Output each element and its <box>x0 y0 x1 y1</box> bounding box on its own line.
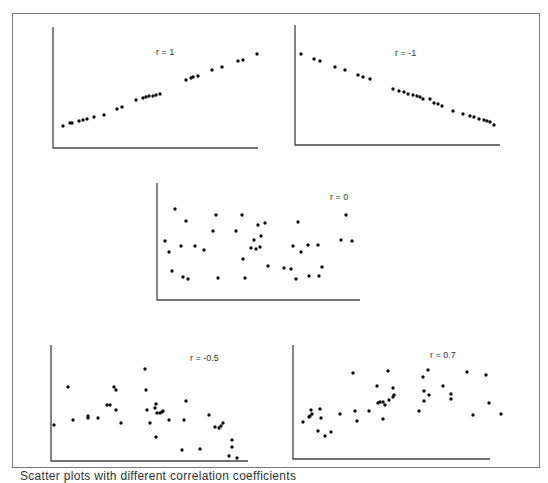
data-point <box>193 244 196 247</box>
data-point <box>86 414 89 417</box>
data-point <box>391 87 394 90</box>
data-point <box>213 425 216 428</box>
data-point <box>472 115 475 118</box>
data-point <box>391 386 394 389</box>
data-point <box>96 416 99 419</box>
data-point <box>318 59 321 62</box>
data-point <box>214 213 217 216</box>
data-point <box>230 438 233 441</box>
data-point <box>259 234 262 237</box>
data-point <box>484 373 487 376</box>
data-point <box>154 435 157 438</box>
data-point <box>383 403 386 406</box>
data-point <box>141 96 144 99</box>
data-point <box>120 105 123 108</box>
data-point <box>375 384 378 387</box>
data-point <box>134 98 137 101</box>
data-point <box>179 244 182 247</box>
data-point <box>306 243 309 246</box>
data-point <box>266 264 269 267</box>
data-point <box>144 95 147 98</box>
data-point <box>236 59 239 62</box>
data-point <box>296 220 299 223</box>
data-point <box>173 207 176 210</box>
data-point <box>184 219 187 222</box>
data-point <box>468 114 471 117</box>
data-point <box>411 93 414 96</box>
data-point <box>186 277 189 280</box>
data-point <box>415 94 418 97</box>
data-point <box>351 371 354 374</box>
correlation-label: r = -0.5 <box>190 353 219 363</box>
data-point <box>81 118 84 121</box>
correlation-label: r = 1 <box>156 47 174 57</box>
data-point <box>220 65 223 68</box>
scatter-r-1: r = 1 <box>53 27 259 148</box>
data-point <box>428 97 431 100</box>
data-point <box>343 68 346 71</box>
data-point <box>350 239 353 242</box>
data-point <box>161 409 164 412</box>
data-point <box>230 445 233 448</box>
data-point <box>191 75 194 78</box>
data-point <box>499 412 502 415</box>
data-point <box>422 399 425 402</box>
data-point <box>210 68 213 71</box>
data-point <box>301 420 304 423</box>
data-point <box>61 124 64 127</box>
scatter-r-0: r = 0 <box>157 183 360 300</box>
data-point <box>249 246 252 249</box>
data-point <box>338 412 341 415</box>
data-point <box>386 369 389 372</box>
data-point <box>316 429 319 432</box>
data-point <box>310 412 313 415</box>
data-point <box>207 413 210 416</box>
data-point <box>227 454 230 457</box>
data-point <box>115 107 118 110</box>
data-point <box>119 421 122 424</box>
figure-caption: Scatter plots with different correlation… <box>20 469 296 483</box>
data-point <box>449 392 452 395</box>
data-point <box>196 74 199 77</box>
data-point <box>381 417 384 420</box>
data-point <box>221 421 224 424</box>
data-point <box>477 117 480 120</box>
data-point <box>422 389 425 392</box>
axes <box>295 25 500 145</box>
data-point <box>158 92 161 95</box>
data-point <box>219 424 222 427</box>
data-point <box>320 265 323 268</box>
data-point <box>482 118 485 121</box>
data-point <box>441 384 444 387</box>
data-point <box>361 75 364 78</box>
data-point <box>155 411 158 414</box>
data-point <box>488 120 491 123</box>
data-point <box>353 409 356 412</box>
data-point <box>427 393 430 396</box>
data-point <box>368 77 371 80</box>
data-point <box>487 401 490 404</box>
data-point <box>105 403 108 406</box>
data-point <box>299 52 302 55</box>
data-point <box>66 385 69 388</box>
data-point <box>71 418 74 421</box>
data-point <box>436 102 439 105</box>
data-point <box>85 117 88 120</box>
data-point <box>381 400 384 403</box>
data-point <box>312 57 315 60</box>
scatter-r-0-7: r = 0.7 <box>293 345 503 459</box>
data-point <box>256 223 259 226</box>
axes <box>293 345 490 459</box>
data-point <box>241 257 244 260</box>
data-point <box>426 368 429 371</box>
data-point <box>52 423 55 426</box>
data-point <box>402 90 405 93</box>
data-point <box>461 112 464 115</box>
data-point <box>492 123 495 126</box>
data-point <box>70 121 73 124</box>
data-point <box>329 430 332 433</box>
data-point <box>282 266 285 269</box>
data-point <box>182 418 185 421</box>
data-point <box>344 213 347 216</box>
data-point <box>387 398 390 401</box>
